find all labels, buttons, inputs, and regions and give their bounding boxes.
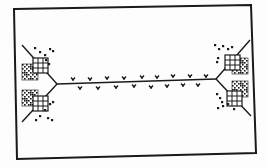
mark-below <box>165 85 169 88</box>
scatter-dot <box>44 109 46 111</box>
grid-outline <box>33 96 48 111</box>
stipple-dot <box>234 72 236 74</box>
stipple-dot <box>26 72 28 74</box>
scatter-dot <box>49 48 51 50</box>
mark-above <box>204 75 208 78</box>
stipple-dot <box>30 102 32 104</box>
stipple-dot <box>24 78 26 80</box>
stipple-dot <box>26 68 28 70</box>
diagram-figure <box>0 0 268 167</box>
stipple-dot <box>32 78 34 80</box>
central-trunk-line <box>57 79 216 84</box>
stipple-dot <box>246 66 248 68</box>
stipple-dot <box>24 104 26 106</box>
scatter-dot <box>49 103 51 105</box>
mark-dot <box>205 76 207 78</box>
stipple-dot <box>30 94 32 96</box>
scatter-dot <box>231 46 233 48</box>
stipple-dot <box>246 89 248 91</box>
stipple-dot <box>30 76 32 78</box>
mark-above <box>105 77 109 80</box>
stipple-dot <box>240 89 242 91</box>
scatter-dot <box>51 119 53 121</box>
stipple-dot <box>36 78 38 80</box>
stipple-dot <box>34 94 36 96</box>
stipple-dot <box>28 96 30 98</box>
stipple-dot <box>242 87 244 89</box>
stipple-dot <box>28 100 30 102</box>
right-lower-block <box>216 81 248 110</box>
mark-dot <box>182 85 184 87</box>
mark-below <box>196 84 200 87</box>
mark-above <box>171 75 175 78</box>
scatter-dot <box>39 115 41 117</box>
stipple-dot <box>24 92 26 94</box>
stipple-dot <box>34 76 36 78</box>
scatter-dot <box>45 59 47 61</box>
mark-dot <box>97 88 99 90</box>
scatter-dot <box>35 119 37 121</box>
scatter-dot <box>217 107 219 109</box>
mark-above <box>140 76 144 79</box>
stipple-dot <box>236 85 238 87</box>
stipple-dot <box>246 83 248 85</box>
stipple-dot <box>26 74 28 76</box>
mark-dot <box>72 79 74 81</box>
stipple-dot <box>234 83 236 85</box>
stipple-dot <box>26 98 28 100</box>
scatter-dot <box>216 61 218 63</box>
mark-dot <box>172 76 174 78</box>
mark-below <box>132 85 136 88</box>
mark-above <box>155 76 159 79</box>
mark-below <box>78 87 82 90</box>
stipple-dot <box>246 87 248 89</box>
stipple-dot <box>242 72 244 74</box>
stipple-dot <box>30 66 32 68</box>
mark-dot <box>89 79 91 81</box>
mark-dot <box>115 87 117 89</box>
scatter-dot <box>217 57 219 59</box>
mark-above <box>122 77 126 80</box>
mark-dot <box>150 87 152 89</box>
stipple-dot <box>30 98 32 100</box>
scatter-dot <box>214 44 216 46</box>
stipple-dot <box>242 60 244 62</box>
mark-below <box>149 86 153 89</box>
scatter-dot <box>218 48 220 50</box>
stipple-dot <box>30 68 32 70</box>
stipple-dot <box>240 85 242 87</box>
stipple-dot <box>26 76 28 78</box>
stipple-dot <box>244 85 246 87</box>
stipple-dot <box>36 74 38 76</box>
stipple-dot <box>28 66 30 68</box>
stipple-dot <box>242 64 244 66</box>
stipple-dot <box>244 66 246 68</box>
stipple-dot <box>242 62 244 64</box>
mark-above <box>88 78 92 81</box>
scatter-dot <box>222 45 224 47</box>
scatter-dot <box>44 54 46 56</box>
scatter-dot <box>221 101 223 103</box>
branching-structure-diagram <box>0 0 268 167</box>
mark-below <box>96 87 100 90</box>
scatter-dot <box>34 47 36 49</box>
stipple-dot <box>244 70 246 72</box>
stipple-dot <box>240 83 242 85</box>
grid-outline <box>225 55 240 70</box>
stipple-dot <box>24 100 26 102</box>
stipple-dot <box>238 83 240 85</box>
stipple-dot <box>242 68 244 70</box>
scatter-dot <box>227 103 229 105</box>
stipple-dot <box>246 68 248 70</box>
scatter-dot <box>219 97 221 99</box>
mark-dot <box>106 78 108 80</box>
trunk-line <box>57 79 216 84</box>
mark-dot <box>79 88 81 90</box>
scatter-dot <box>39 51 41 53</box>
stipple-dot <box>238 87 240 89</box>
scatter-dot <box>222 105 224 107</box>
open-grid <box>33 96 48 111</box>
stipple-dot <box>28 92 30 94</box>
stipple-dot <box>30 78 32 80</box>
stipple-dot <box>238 72 240 74</box>
